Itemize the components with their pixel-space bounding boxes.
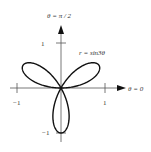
- vertical-axis-arrow-icon: [58, 25, 64, 34]
- y-tick-label-1: 1: [41, 40, 45, 48]
- polar-plot: θ = π / 2 θ = 0 r = sin3θ −1 1 1 −1: [0, 0, 151, 152]
- vertical-axis-label: θ = π / 2: [47, 12, 72, 20]
- polar-axis-arrow-icon: [117, 85, 126, 91]
- x-tick-label-1: 1: [103, 99, 107, 107]
- polar-axis-label: θ = 0: [128, 85, 144, 93]
- x-tick-label-minus-1: −1: [13, 99, 21, 107]
- curve-label: r = sin3θ: [79, 49, 106, 57]
- y-tick-label-minus-1: −1: [42, 129, 50, 137]
